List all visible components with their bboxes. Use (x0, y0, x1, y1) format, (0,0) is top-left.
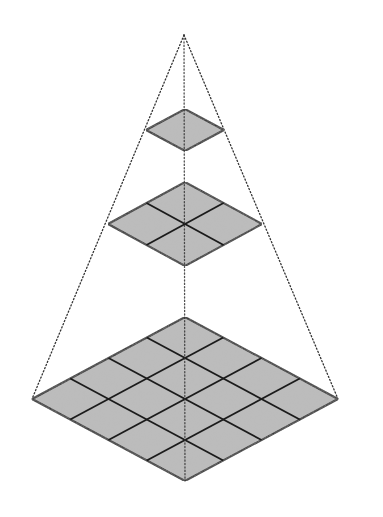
pyramid-diagram (0, 0, 383, 517)
top-level-tile (146, 109, 224, 151)
top-level (146, 109, 224, 151)
